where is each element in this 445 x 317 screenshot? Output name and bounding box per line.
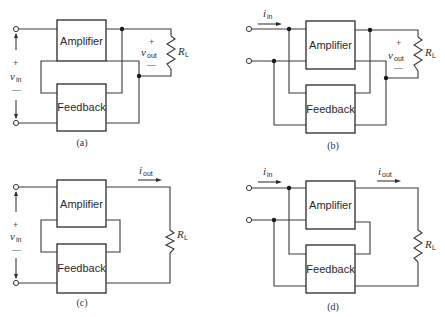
iout-subscript: out [143,170,153,177]
shunt-wire-top [289,188,306,254]
vout-plus: + [149,37,154,47]
vin-arrow-up-icon [14,191,18,196]
panel-a: + v in — Amplifier Feedback R L + v out … [10,20,189,149]
input-terminal-top [13,26,18,31]
vout-symbol: v [388,49,393,61]
output-wire-top [355,30,418,37]
junction-dot [120,27,124,31]
right-loop-wire [106,220,120,252]
load-return-wire [139,69,171,76]
load-resistor-icon [166,230,174,253]
junction-dot [287,27,291,31]
amplifier-label: Amplifier [60,198,103,210]
rl-subscript: L [432,244,436,251]
input-terminal-top [13,184,18,189]
vin-plus: + [13,58,18,68]
iin-symbol: i [263,7,266,19]
output-wire-top [355,188,418,230]
rl-symbol: R [177,45,185,57]
rl-subscript: L [185,51,189,58]
junction-dot [272,218,276,222]
output-wire-top [106,29,171,36]
vout-minus: — [394,63,403,73]
caption-a: (a) [76,137,87,149]
input-terminal-bottom [246,217,251,222]
load-resistor-icon [414,37,422,71]
vin-subscript: in [16,236,22,243]
amplifier-label: Amplifier [309,39,352,51]
vin-arrow-down-icon [14,114,18,119]
feedback-label: Feedback [57,262,106,274]
left-loop-wire [41,220,57,252]
output-wire-top [106,187,170,230]
shunt-wire-bottom [274,220,306,286]
iout-arrow-icon [395,179,401,183]
vin-symbol: v [10,230,15,242]
feedback-label: Feedback [306,263,355,275]
vout-subscript: out [147,52,157,59]
rl-symbol: R [176,228,184,240]
rl-subscript: L [184,234,188,241]
iin-subscript: in [267,171,273,178]
iin-subscript: in [267,13,273,20]
iout-symbol: i [139,164,142,176]
rl-subscript: L [432,52,436,59]
feedback-label: Feedback [57,101,106,113]
vin-arrow-down-icon [14,274,18,279]
output-wire-bottom [355,262,418,286]
feedback-label: Feedback [306,103,355,115]
panel-b: i in Amplifier Feedback R L + v out — (b… [246,7,436,152]
input-terminal-bottom [13,280,18,285]
caption-d: (d) [327,301,339,313]
vout-subscript: out [394,55,404,62]
load-resistor-icon [414,230,422,262]
rl-symbol: R [424,46,432,58]
vin-minus: — [12,85,21,95]
vin-minus: — [12,245,21,255]
output-wire-bottom [106,253,170,283]
iout-symbol: i [378,165,381,177]
iout-arrow-icon [156,178,162,182]
input-terminal-bottom [246,58,251,63]
feedback-configurations-diagram: + v in — Amplifier Feedback R L + v out … [0,0,445,317]
vin-arrow-up-icon [14,33,18,38]
junction-dot [287,186,291,190]
right-loop-wire [355,222,370,254]
iin-arrow-icon [276,22,282,26]
vout-symbol: v [141,46,146,58]
vin-symbol: v [10,70,15,82]
panel-d: i in Amplifier Feedback R L i out (d) [246,165,436,313]
rl-symbol: R [424,238,432,250]
caption-b: (b) [327,140,339,152]
junction-dot [368,28,372,32]
vin-subscript: in [16,76,22,83]
amplifier-label: Amplifier [309,199,352,211]
input-terminal-bottom [13,120,18,125]
input-terminal-top [246,26,251,31]
vin-plus: + [13,220,18,230]
panel-c: + v in — Amplifier Feedback R L i out (c… [10,164,188,309]
amplifier-label: Amplifier [60,35,103,47]
vout-minus: — [147,60,156,70]
junction-dot [384,76,388,80]
left-loop-wire [41,61,57,93]
junction-dot [137,74,141,78]
iin-arrow-icon [276,180,282,184]
load-resistor-icon [167,36,175,69]
caption-c: (c) [76,297,87,309]
iin-symbol: i [263,165,266,177]
vout-plus: + [396,38,401,48]
junction-dot [272,59,276,63]
input-terminal-top [246,185,251,190]
iout-subscript: out [382,171,392,178]
